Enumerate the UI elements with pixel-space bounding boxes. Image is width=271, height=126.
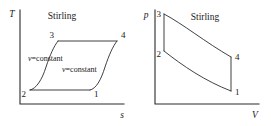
- pv-y-axis-label: p: [143, 10, 149, 20]
- ts-state-point-1: 1: [94, 89, 99, 99]
- ts-chart-title: Stirling: [48, 11, 77, 21]
- temperature-entropy-diagram: T s Stirling 3 4 2 1 v=constant v=consta…: [0, 0, 136, 126]
- ts-state-point-2: 2: [22, 89, 27, 99]
- stirling-cycle-figure: T s Stirling 3 4 2 1 v=constant v=consta…: [0, 0, 271, 126]
- ts-process-label-right-rest: =constant: [66, 65, 98, 74]
- ts-process-2-3: [30, 41, 58, 90]
- pressure-volume-diagram: p V Stirling 3 2 4 1: [135, 0, 271, 126]
- pv-state-point-2: 2: [157, 49, 162, 59]
- pv-process-1-2: [164, 51, 231, 91]
- ts-process-label-left: v=constant: [28, 54, 64, 63]
- ts-x-axis-label: s: [120, 110, 124, 120]
- pv-axes: [155, 10, 259, 104]
- pv-x-axis-label: V: [252, 110, 259, 120]
- ts-y-axis-label: T: [9, 9, 15, 19]
- ts-state-point-3: 3: [50, 30, 55, 40]
- pv-chart-title: Stirling: [191, 12, 220, 22]
- ts-process-label-left-rest: =constant: [32, 54, 64, 63]
- ts-diagram-canvas: T s Stirling 3 4 2 1 v=constant v=consta…: [0, 0, 136, 126]
- ts-state-point-4: 4: [121, 30, 126, 40]
- ts-process-label-right: v=constant: [62, 65, 98, 74]
- pv-diagram-canvas: p V Stirling 3 2 4 1: [135, 0, 271, 126]
- pv-state-point-1: 1: [235, 87, 240, 97]
- pv-state-point-3: 3: [157, 9, 162, 19]
- pv-state-point-4: 4: [235, 52, 240, 62]
